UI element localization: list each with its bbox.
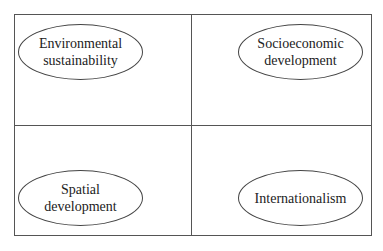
quadrant-label: Socioeconomic development <box>257 35 343 69</box>
ellipse-environmental-sustainability: Environmental sustainability <box>18 24 143 80</box>
ellipse-spatial-development: Spatial development <box>18 170 143 226</box>
ellipse-socioeconomic-development: Socioeconomic development <box>238 24 363 80</box>
quadrant-label: Spatial development <box>44 181 116 215</box>
quadrant-label: Environmental sustainability <box>39 35 122 69</box>
horizontal-divider <box>14 125 372 126</box>
quadrant-label: Internationalism <box>255 190 347 207</box>
ellipse-internationalism: Internationalism <box>238 170 363 226</box>
